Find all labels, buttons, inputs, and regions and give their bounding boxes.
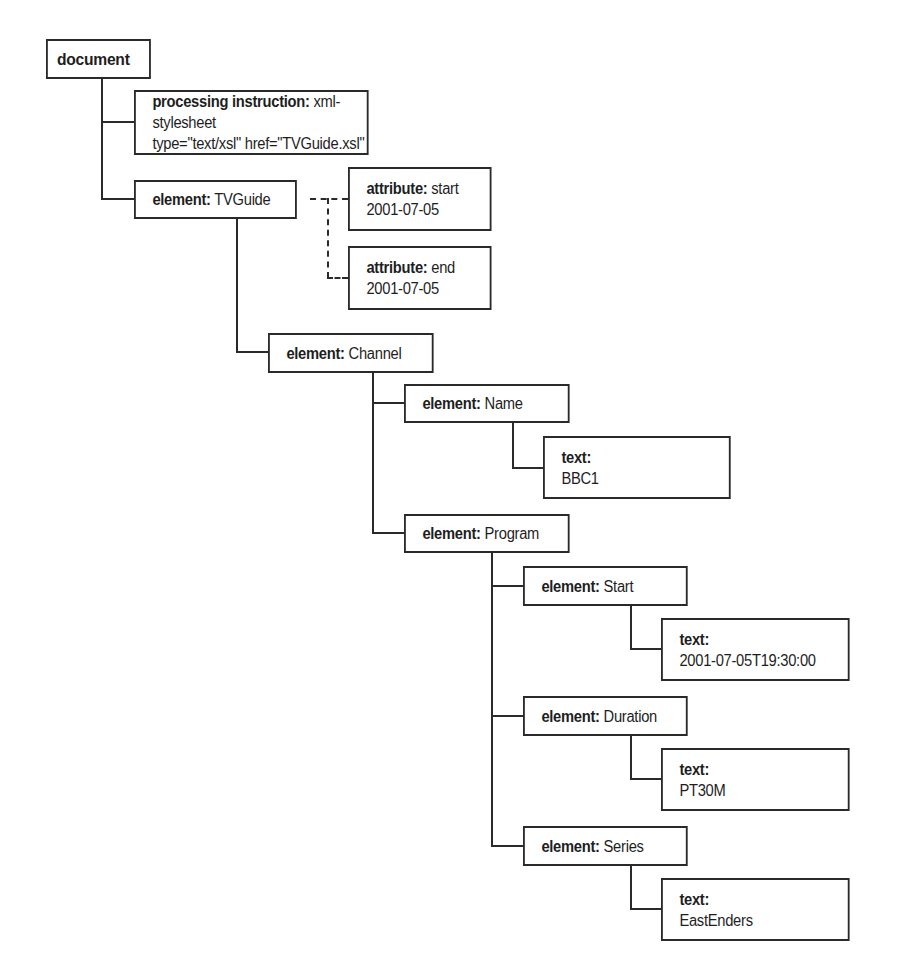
node-kind: element: (541, 578, 599, 595)
node-kind: element: (422, 395, 480, 412)
node-detail: BBC1 (561, 468, 728, 489)
node-text-series: text: EastEnders (661, 878, 850, 941)
node-value: Series (604, 838, 644, 855)
node-value: Start (604, 578, 634, 595)
node-kind: element: (286, 345, 344, 362)
node-kind: attribute: (366, 180, 427, 197)
node-kind: element: (541, 838, 599, 855)
node-kind: text: (679, 891, 709, 908)
node-attribute-start: attribute: start 2001-07-05 (348, 167, 492, 231)
node-kind: element: (152, 191, 210, 208)
node-kind: text: (561, 449, 591, 466)
node-element-program: element: Program (404, 514, 570, 553)
node-detail: 2001-07-05 (366, 199, 489, 220)
node-kind: processing instruction: (152, 93, 309, 110)
node-value: Duration (604, 708, 657, 725)
connector (630, 605, 632, 650)
connector (491, 552, 493, 847)
node-detail: PT30M (679, 780, 847, 801)
node-element-start: element: Start (523, 566, 688, 606)
connector (630, 865, 632, 910)
connector (630, 735, 632, 780)
node-processing-instruction: processing instruction: xml-stylesheet t… (134, 90, 369, 155)
node-value: Program (485, 525, 540, 542)
node-element-duration: element: Duration (523, 696, 688, 736)
connector (491, 585, 524, 587)
node-kind: element: (422, 525, 480, 542)
node-detail: type="text/xsl" href="TVGuide.xsl" (152, 133, 366, 154)
node-text-start-time: text: 2001-07-05T19:30:00 (661, 618, 850, 681)
node-kind: element: (541, 708, 599, 725)
node-value: start (431, 180, 458, 197)
connector (491, 845, 524, 847)
connector (236, 218, 238, 353)
dashed-connector (310, 198, 348, 200)
dashed-connector (327, 198, 329, 278)
node-value: Name (485, 395, 523, 412)
connector (630, 908, 662, 910)
node-label: document (57, 50, 130, 69)
connector (491, 715, 524, 717)
node-element-channel: element: Channel (268, 333, 434, 373)
connector (512, 422, 514, 469)
node-document: document (46, 39, 151, 79)
node-text-bbc1: text: BBC1 (543, 436, 731, 499)
node-detail: EastEnders (679, 910, 847, 931)
node-element-tvguide: element: TVGuide (134, 180, 297, 219)
node-kind: text: (679, 631, 709, 648)
node-value: end (431, 259, 455, 276)
node-text-duration: text: PT30M (661, 748, 850, 811)
connector (101, 121, 135, 123)
node-element-series: element: Series (523, 826, 688, 866)
connector (101, 78, 103, 200)
connector (372, 532, 405, 534)
node-detail: 2001-07-05 (366, 278, 489, 299)
connector (372, 372, 374, 534)
node-value: TVGuide (214, 191, 270, 208)
connector (236, 351, 269, 353)
connector (101, 198, 135, 200)
connector (630, 778, 662, 780)
node-kind: attribute: (366, 259, 427, 276)
connector (630, 648, 662, 650)
node-value: Channel (349, 345, 402, 362)
node-kind: text: (679, 761, 709, 778)
node-detail: 2001-07-05T19:30:00 (679, 650, 847, 671)
node-attribute-end: attribute: end 2001-07-05 (348, 246, 492, 310)
dashed-connector (327, 277, 348, 279)
connector (372, 402, 405, 404)
node-element-name: element: Name (404, 384, 570, 423)
connector (512, 467, 544, 469)
